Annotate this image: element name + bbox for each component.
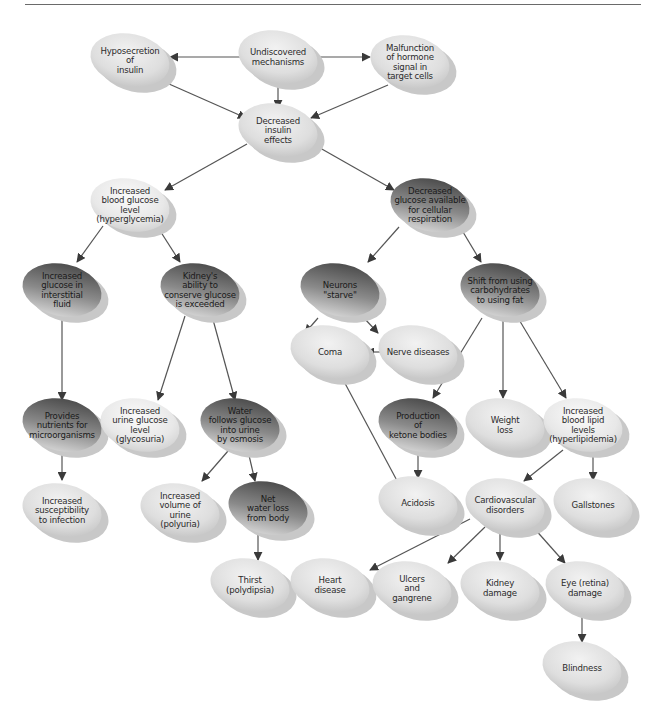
- node-label-line: Kidney: [486, 578, 514, 588]
- node-label-line: (polyuria): [160, 519, 200, 529]
- node-weight: Weightloss: [460, 391, 556, 464]
- node-water_follows: Waterfollows glucoseinto urineby osmosis: [195, 391, 291, 464]
- node-label-line: Undiscovered: [250, 47, 306, 57]
- node-label-line: conserve glucose: [164, 290, 236, 300]
- node-label-line: blood glucose: [102, 195, 159, 205]
- node-label-line: urine: [169, 510, 190, 520]
- node-label-line: Increased: [42, 496, 82, 506]
- node-label-line: follows glucose: [209, 415, 272, 425]
- node-label-line: (glycosuria): [116, 434, 164, 444]
- node-label-line: (polydipsia): [226, 585, 274, 595]
- node-label-line: level: [130, 425, 149, 435]
- node-label-line: target cells: [387, 71, 433, 81]
- node-label-line: ability to: [182, 280, 218, 290]
- node-label-line: Thirst: [237, 575, 262, 585]
- node-nutrients: Providesnutrients formicroorganisms: [17, 391, 113, 464]
- node-label-line: signal in: [393, 62, 427, 72]
- node-label-line: urine glucose: [112, 415, 167, 425]
- node-ketone: Productionofketone bodies: [373, 391, 469, 464]
- node-label-line: Production: [396, 411, 440, 421]
- node-net_water: Netwater lossfrom body: [223, 474, 319, 547]
- node-kidney_damage: Kidneydamage: [455, 554, 551, 627]
- node-gallstones: Gallstones: [548, 471, 644, 544]
- node-label-line: Coma: [318, 347, 342, 357]
- node-kidney_ability: Kidney'sability toconserve glucoseis exc…: [155, 256, 251, 329]
- node-label-line: Heart: [319, 575, 343, 585]
- node-label-line: volume of: [159, 500, 201, 510]
- node-label-line: Acidosis: [401, 498, 435, 508]
- node-label-line: of hormone: [386, 52, 433, 62]
- node-label-line: Increased: [120, 406, 160, 416]
- node-label-line: (hyperlipidemia): [549, 434, 617, 444]
- node-blindness: Blindness: [537, 634, 633, 707]
- node-coma: Coma: [285, 318, 381, 391]
- node-susceptibility: Increasedsusceptibilityto infection: [17, 476, 113, 549]
- node-shift: Shift from usingcarbohydratesto using fa…: [455, 256, 551, 329]
- node-label-line: ketone bodies: [389, 430, 447, 440]
- node-hyposecretion: Hyposecretionofinsulin: [85, 26, 181, 99]
- node-label-line: insulin: [265, 125, 292, 135]
- diabetes-concept-map: HyposecretionofinsulinUndiscoveredmechan…: [0, 0, 651, 721]
- node-label-line: for cellular: [408, 205, 452, 215]
- node-label-line: disorders: [486, 505, 525, 515]
- node-label-line: Blindness: [562, 663, 602, 673]
- edge-cardio-to-ulcers: [448, 527, 485, 563]
- node-label-line: gangrene: [392, 593, 431, 603]
- nodes-layer: HyposecretionofinsulinUndiscoveredmechan…: [17, 23, 644, 707]
- node-nerve: Nerve diseases: [373, 318, 469, 391]
- node-thirst: Thirst(polydipsia): [205, 551, 301, 624]
- node-label-line: nutrients for: [37, 420, 88, 430]
- node-neurons: Neurons"starve": [295, 256, 391, 329]
- node-label-line: Neurons: [323, 280, 358, 290]
- node-label-line: microorganisms: [29, 430, 96, 440]
- node-undiscovered: Undiscoveredmechanisms: [233, 23, 329, 96]
- node-label-line: Hyposecretion: [100, 46, 159, 56]
- node-label-line: level: [120, 205, 139, 215]
- edge-glucose_available-to-neurons: [368, 227, 399, 262]
- node-label-line: is exceeded: [176, 299, 225, 309]
- node-label-line: insulin: [117, 65, 144, 75]
- node-label-line: "starve": [323, 290, 357, 300]
- node-label-line: disease: [314, 585, 345, 595]
- edge-decreased_insulin-to-glucose_available: [313, 144, 394, 190]
- node-label-line: damage: [568, 588, 602, 598]
- node-label-line: to infection: [39, 515, 85, 525]
- node-label-line: from body: [247, 513, 289, 523]
- node-urine_glucose: Increasedurine glucoselevel(glycosuria): [95, 391, 191, 464]
- node-label-line: Ulcers: [399, 574, 425, 584]
- node-label-line: Water: [228, 406, 253, 416]
- node-label-line: Malfunction: [386, 43, 434, 53]
- node-eye: Eye (retina)damage: [540, 554, 636, 627]
- node-decreased_insulin: Decreasedinsulineffects: [233, 96, 329, 169]
- node-label-line: to using fat: [477, 295, 524, 305]
- node-label-line: Eye (retina): [561, 578, 609, 588]
- node-interstitial: Increasedglucose ininterstitialfluid: [17, 256, 113, 329]
- node-label-line: Gallstones: [571, 500, 615, 510]
- node-heart: Heartdisease: [285, 551, 381, 624]
- node-volume_urine: Increasedvolume ofurine(polyuria): [135, 476, 231, 549]
- edge-decreased_insulin-to-blood_glucose: [165, 144, 247, 190]
- node-label-line: blood lipid: [562, 415, 604, 425]
- node-label-line: Provides: [45, 411, 80, 421]
- edge-malfunction-to-decreased_insulin: [311, 85, 388, 118]
- node-label-line: Weight: [491, 415, 521, 425]
- node-label-line: effects: [264, 135, 293, 145]
- node-lipid: Increasedblood lipidlevels(hyperlipidemi…: [538, 391, 634, 464]
- node-cardio: Cardiovasculardisorders: [460, 471, 556, 544]
- node-label-line: of: [126, 55, 135, 65]
- node-label-line: and: [404, 583, 420, 593]
- node-ulcers: Ulcersandgangrene: [367, 554, 463, 627]
- edge-blood_glucose-to-interstitial: [77, 226, 103, 262]
- node-label-line: respiration: [408, 214, 452, 224]
- node-label-line: mechanisms: [252, 57, 305, 67]
- node-label-line: by osmosis: [217, 434, 264, 444]
- node-label-line: Increased: [42, 271, 82, 281]
- node-label-line: Increased: [110, 186, 150, 196]
- node-label-line: damage: [483, 588, 517, 598]
- node-acidosis: Acidosis: [373, 469, 469, 542]
- node-label-line: fluid: [53, 299, 71, 309]
- edge-kidney_ability-to-water_follows: [212, 316, 235, 400]
- node-label-line: loss: [497, 425, 514, 435]
- node-label-line: Net: [261, 494, 276, 504]
- node-label-line: Decreased: [408, 186, 452, 196]
